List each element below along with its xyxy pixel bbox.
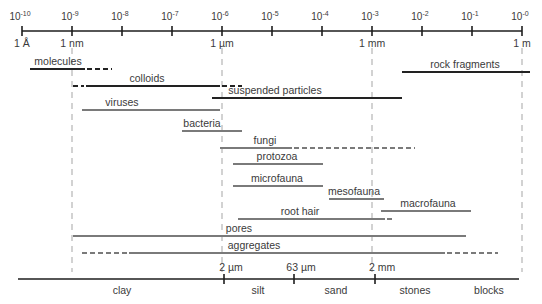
log-scale-axis: 10-101 Å10-91 nm10-810-710-61 µm10-510-4… bbox=[9, 10, 531, 49]
power-exponent: -5 bbox=[272, 10, 278, 17]
power-of-ten-label: 10-7 bbox=[161, 10, 178, 22]
power-base: 10 bbox=[411, 11, 423, 22]
power-base: 10 bbox=[161, 11, 173, 22]
power-exponent: -7 bbox=[172, 10, 178, 17]
power-base: 10 bbox=[511, 11, 523, 22]
range-bar-bacteria: bacteria bbox=[182, 117, 242, 131]
unit-label: 1 µm bbox=[210, 37, 234, 49]
range-bar-microfauna: microfauna bbox=[233, 172, 323, 186]
range-bar-mesofauna: mesofauna bbox=[328, 185, 384, 199]
unit-label: 1 Å bbox=[14, 37, 30, 49]
range-bar-suspended-particles: suspended particles bbox=[212, 84, 402, 98]
power-of-ten-label: 10-1 bbox=[461, 10, 478, 22]
range-label: root hair bbox=[281, 205, 320, 217]
power-exponent: -9 bbox=[72, 10, 78, 17]
range-label: pores bbox=[226, 222, 252, 234]
range-bar-macrofauna: macrofauna bbox=[381, 197, 471, 211]
power-of-ten-label: 10-3 bbox=[361, 10, 378, 22]
boundary-label: 63 µm bbox=[286, 261, 316, 273]
range-bar-protozoa: protozoa bbox=[233, 150, 323, 164]
power-exponent: -4 bbox=[322, 10, 328, 17]
power-base: 10 bbox=[9, 11, 21, 22]
power-base: 10 bbox=[461, 11, 473, 22]
power-base: 10 bbox=[361, 11, 373, 22]
unit-label: 1 nm bbox=[60, 37, 84, 49]
texture-class-label: stones bbox=[400, 284, 431, 296]
power-of-ten-label: 10-2 bbox=[411, 10, 428, 22]
unit-label: 1 m bbox=[513, 37, 531, 49]
range-bar-rock-fragments: rock fragments bbox=[402, 58, 530, 72]
unit-label: 1 mm bbox=[359, 37, 386, 49]
power-exponent: -1 bbox=[472, 10, 478, 17]
power-of-ten-label: 10-8 bbox=[111, 10, 128, 22]
range-label: aggregates bbox=[228, 239, 281, 251]
power-of-ten-label: 10-5 bbox=[261, 10, 278, 22]
power-of-ten-label: 10-4 bbox=[311, 10, 328, 22]
range-label: suspended particles bbox=[228, 84, 321, 96]
range-bar-fungi: fungi bbox=[220, 134, 415, 148]
power-exponent: -10 bbox=[21, 10, 31, 17]
boundary-label: 2 µm bbox=[219, 261, 243, 273]
power-base: 10 bbox=[261, 11, 273, 22]
range-label: rock fragments bbox=[430, 58, 499, 70]
power-base: 10 bbox=[111, 11, 123, 22]
soil-texture-axis: 2 µm63 µm2 mmclaysiltsandstonesblocks bbox=[18, 261, 519, 296]
power-of-ten-label: 10-0 bbox=[511, 10, 528, 22]
power-base: 10 bbox=[311, 11, 323, 22]
power-base: 10 bbox=[61, 11, 73, 22]
power-of-ten-label: 10-10 bbox=[9, 10, 30, 22]
range-bar-aggregates: aggregates bbox=[82, 239, 498, 253]
range-label: molecules bbox=[34, 55, 81, 67]
range-label: bacteria bbox=[183, 117, 221, 129]
power-exponent: -6 bbox=[222, 10, 228, 17]
texture-class-label: sand bbox=[325, 284, 348, 296]
range-label: fungi bbox=[254, 134, 277, 146]
range-label: mesofauna bbox=[328, 185, 380, 197]
range-label: macrofauna bbox=[400, 197, 456, 209]
range-bar-pores: pores bbox=[73, 222, 466, 236]
power-of-ten-label: 10-9 bbox=[61, 10, 78, 22]
range-label: viruses bbox=[105, 96, 138, 108]
texture-class-label: silt bbox=[252, 284, 265, 296]
power-base: 10 bbox=[211, 11, 223, 22]
range-bar-colloids: colloids bbox=[73, 72, 242, 86]
range-bar-viruses: viruses bbox=[82, 96, 220, 110]
texture-class-label: blocks bbox=[474, 284, 504, 296]
power-exponent: -2 bbox=[422, 10, 428, 17]
soil-size-scale-diagram: 10-101 Å10-91 nm10-810-710-61 µm10-510-4… bbox=[0, 0, 542, 304]
boundary-label: 2 mm bbox=[369, 261, 396, 273]
range-label: protozoa bbox=[257, 150, 298, 162]
power-exponent: -0 bbox=[522, 10, 528, 17]
texture-class-label: clay bbox=[113, 284, 132, 296]
range-label: microfauna bbox=[251, 172, 303, 184]
size-range-bars: moleculescolloidsrock fragmentssuspended… bbox=[30, 55, 530, 253]
power-exponent: -3 bbox=[372, 10, 378, 17]
power-of-ten-label: 10-6 bbox=[211, 10, 228, 22]
range-bar-molecules: molecules bbox=[30, 55, 112, 69]
power-exponent: -8 bbox=[122, 10, 128, 17]
range-label: colloids bbox=[129, 72, 164, 84]
